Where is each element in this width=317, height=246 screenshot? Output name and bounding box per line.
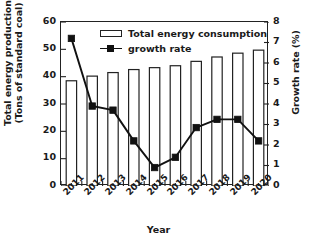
chart-figure: Total energy production (Tons of standar… xyxy=(0,0,317,246)
bar-series xyxy=(66,50,264,186)
x-axis-title: Year xyxy=(0,224,317,235)
y-axis-right-label-3: 3 xyxy=(273,117,295,128)
growth-rate-line xyxy=(71,38,258,167)
legend-item-bars: Total energy consumption xyxy=(100,26,267,40)
growth-rate-marker-2020 xyxy=(255,138,261,144)
growth-rate-marker-2017 xyxy=(193,124,199,130)
growth-rate-marker-2019 xyxy=(235,116,241,122)
legend-label-bars: Total energy consumption xyxy=(128,28,267,39)
y-axis-left-label-50: 50 xyxy=(30,42,56,53)
y-axis-left-title-line2: (Tons of standard coal) xyxy=(13,0,24,138)
y-axis-left-title: Total energy production (Tons of standar… xyxy=(2,0,24,138)
y-axis-left-label-40: 40 xyxy=(30,69,56,80)
bar-2020 xyxy=(253,50,263,186)
y-axis-left-label-60: 60 xyxy=(30,15,56,26)
bar-2014 xyxy=(129,70,139,186)
bar-2011 xyxy=(66,81,76,186)
growth-rate-marker-2015 xyxy=(151,164,157,170)
y-axis-left-label-30: 30 xyxy=(30,97,56,108)
bar-2016 xyxy=(170,66,180,186)
y-axis-right-label-7: 7 xyxy=(273,35,295,46)
growth-rate-marker-2016 xyxy=(172,154,178,160)
growth-rate-marker-2013 xyxy=(110,107,116,113)
y-axis-left-label-10: 10 xyxy=(30,151,56,162)
growth-rate-marker-2018 xyxy=(214,116,220,122)
legend-line-swatch-icon xyxy=(100,44,122,53)
y-axis-left-ticks xyxy=(61,22,66,186)
y-axis-right-title: Growth rate (%) xyxy=(290,18,301,128)
growth-rate-marker-2014 xyxy=(131,138,137,144)
y-axis-right-label-1: 1 xyxy=(273,158,295,169)
y-axis-right-label-4: 4 xyxy=(273,97,295,108)
bar-2017 xyxy=(191,61,201,186)
y-axis-right-label-5: 5 xyxy=(273,76,295,87)
chart-legend: Total energy consumption growth rate xyxy=(100,26,267,56)
legend-bar-swatch-icon xyxy=(100,30,122,37)
y-axis-right-label-2: 2 xyxy=(273,138,295,149)
y-axis-right-label-0: 0 xyxy=(273,179,295,190)
y-axis-left-label-20: 20 xyxy=(30,124,56,135)
y-axis-left-title-line1: Total energy production xyxy=(2,0,13,126)
bar-2013 xyxy=(108,73,118,186)
y-axis-left-label-0: 0 xyxy=(30,179,56,190)
legend-label-line: growth rate xyxy=(128,43,191,54)
legend-item-line: growth rate xyxy=(100,41,267,55)
growth-rate-marker-2012 xyxy=(89,103,95,109)
y-axis-right-label-6: 6 xyxy=(273,56,295,67)
y-axis-right-label-8: 8 xyxy=(273,15,295,26)
growth-rate-marker-2011 xyxy=(68,35,74,41)
